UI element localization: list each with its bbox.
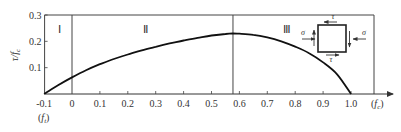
x-tick-label: 0.5 [205,98,218,109]
x-tick-label: 0.1 [94,98,107,109]
y-tick-label: 0.1 [29,62,42,73]
plot-frame [45,15,393,94]
shear-compression-failure-chart: -0.100.10.20.30.40.50.60.70.80.91.00.10.… [0,0,401,132]
sigma-label-left: σ [301,28,306,37]
region-label: Ⅱ [143,23,148,35]
x-tick-label: 0.2 [122,98,135,109]
region-labels: ⅠⅡⅢ [58,23,292,35]
x-tick-label: 0.8 [289,98,302,109]
x-tick-label: 0.6 [233,98,246,109]
y-tick-label: 0.2 [29,36,42,47]
stress-element-diagram: τ τ σ σ [301,12,367,64]
region-label: Ⅰ [58,23,61,35]
x-axis-label-tension: (ft) [38,112,49,125]
x-tick-label: 0.4 [177,98,190,109]
x-tick-label: 1.0 [345,98,358,109]
failure-envelope-curve [44,33,351,94]
region-dividers [72,15,233,94]
tau-label-top: τ [332,12,336,21]
x-tick-label: 0.3 [149,98,162,109]
x-tick-label: 0.9 [317,98,330,109]
stress-element-square [318,25,346,52]
x-axis-label-compression: (fc) [371,98,384,111]
sigma-label-right: σ [362,28,367,37]
region-label: Ⅲ [283,23,291,35]
y-axis-label: τ/fc [9,48,22,61]
x-tick-label: -0.1 [36,98,52,109]
x-tick-label: 0.7 [261,98,274,109]
y-tick-label: 0.3 [29,10,42,21]
x-tick-label: 0 [70,98,75,109]
tau-label-bottom: τ [330,55,334,64]
